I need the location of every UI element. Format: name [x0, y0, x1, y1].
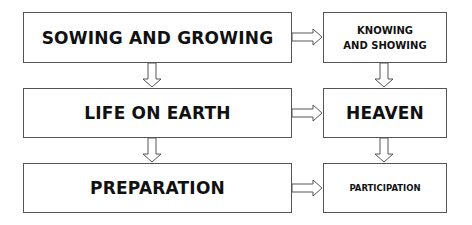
node-participation: PARTICIPATION	[323, 163, 447, 213]
node-preparation: PREPARATION	[23, 163, 292, 213]
node-label: HEAVEN	[346, 103, 424, 123]
arrow-right-icon	[292, 180, 322, 196]
node-label: KNOWING AND SHOWING	[343, 23, 426, 53]
node-label: SOWING AND GROWING	[42, 28, 274, 48]
arrow-down-icon	[375, 63, 393, 87]
node-life-on-earth: LIFE ON EARTH	[23, 88, 292, 138]
arrow-down-icon	[143, 63, 161, 87]
arrow-right-icon	[292, 29, 322, 45]
node-label: PARTICIPATION	[349, 183, 420, 193]
arrow-down-icon	[375, 138, 393, 162]
node-knowing-and-showing: KNOWING AND SHOWING	[323, 12, 447, 63]
node-label: LIFE ON EARTH	[84, 103, 230, 123]
node-sowing-and-growing: SOWING AND GROWING	[23, 12, 292, 63]
node-heaven: HEAVEN	[323, 88, 447, 138]
node-label-line: AND SHOWING	[343, 40, 426, 51]
arrow-right-icon	[292, 105, 322, 121]
node-label: PREPARATION	[90, 178, 225, 198]
arrow-down-icon	[143, 138, 161, 162]
node-label-line: KNOWING	[357, 25, 413, 36]
